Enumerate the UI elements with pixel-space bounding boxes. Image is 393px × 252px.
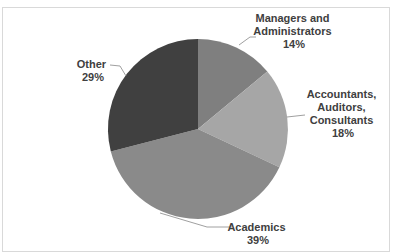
leader-managers	[239, 37, 256, 45]
label-accountants: Accountants, Auditors, Consultants 18%	[307, 88, 380, 139]
label-academics: Academics 39%	[227, 221, 288, 246]
label-other: Other 29%	[77, 58, 109, 83]
leader-accountants	[287, 115, 305, 117]
leader-other	[110, 65, 126, 76]
label-managers: Managers and Administrators 14%	[253, 12, 334, 50]
